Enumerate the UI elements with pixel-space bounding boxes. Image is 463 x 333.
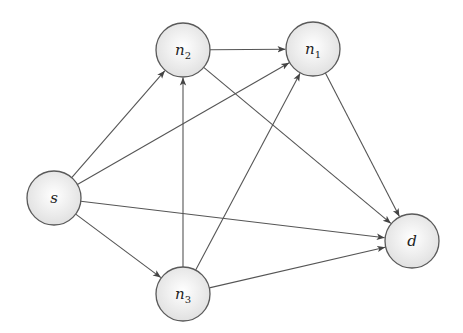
edge-n2-to-n1 <box>210 49 286 50</box>
edge-s-to-n3 <box>76 214 161 278</box>
edge-n3-to-d <box>209 247 385 288</box>
node-label: s <box>50 189 58 207</box>
edge-n3-to-n1 <box>196 73 300 270</box>
edge-s-to-d <box>81 201 385 238</box>
node-n1: n1 <box>286 22 340 76</box>
edge-n1-to-d <box>325 73 399 217</box>
node-d: d <box>385 214 439 268</box>
node-n3: n3 <box>156 267 210 321</box>
nodes-layer: sn2n1n3d <box>27 22 439 321</box>
network-graph: sn2n1n3d <box>0 0 463 333</box>
node-n2: n2 <box>156 23 210 77</box>
edges-layer <box>72 49 400 288</box>
node-s: s <box>27 171 81 225</box>
node-label: d <box>407 232 417 250</box>
